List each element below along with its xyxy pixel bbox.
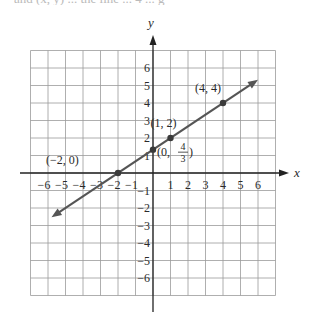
point-label: (1, 2) bbox=[151, 116, 177, 130]
data-point bbox=[220, 100, 226, 106]
data-point bbox=[115, 170, 121, 176]
y-tick-label: 3 bbox=[144, 114, 150, 128]
x-axis-label: x bbox=[293, 165, 300, 180]
y-tick-label: −2 bbox=[137, 201, 150, 215]
point-label: (−2, 0) bbox=[46, 153, 79, 167]
x-tick-label: 2 bbox=[185, 178, 191, 192]
x-tick-label: 3 bbox=[203, 178, 209, 192]
y-tick-label: 2 bbox=[144, 131, 150, 145]
y-tick-label: 4 bbox=[144, 96, 150, 110]
point-label-suffix: ) bbox=[189, 145, 193, 159]
point-label: (4, 4) bbox=[195, 81, 221, 95]
y-tick-label: −1 bbox=[137, 184, 150, 198]
line-arrow-lower-left-icon bbox=[52, 208, 63, 217]
y-axis-label: y bbox=[146, 15, 154, 30]
fraction-numerator: 4 bbox=[181, 141, 186, 152]
y-tick-label: −3 bbox=[137, 219, 150, 233]
y-tick-label: 5 bbox=[144, 79, 150, 93]
x-tick-label: 1 bbox=[168, 178, 174, 192]
x-tick-label: 5 bbox=[238, 178, 244, 192]
x-tick-label: −1 bbox=[125, 178, 138, 192]
x-tick-label: −5 bbox=[55, 178, 68, 192]
fraction-denominator: 3 bbox=[181, 153, 186, 164]
x-tick-label: −4 bbox=[73, 178, 86, 192]
y-tick-label: −6 bbox=[137, 271, 150, 285]
x-tick-label: 6 bbox=[255, 178, 261, 192]
y-tick-label: −4 bbox=[137, 236, 150, 250]
line-arrow-upper-right-icon bbox=[247, 80, 258, 89]
data-point bbox=[167, 135, 173, 141]
x-axis-arrow-icon bbox=[279, 170, 289, 177]
x-tick-label: −2 bbox=[108, 178, 121, 192]
data-point bbox=[150, 146, 156, 152]
y-tick-label: 6 bbox=[144, 61, 150, 75]
x-tick-label: −6 bbox=[38, 178, 51, 192]
x-tick-label: 4 bbox=[220, 178, 226, 192]
point-label-prefix: (0, bbox=[157, 145, 170, 159]
y-tick-label: −5 bbox=[137, 254, 150, 268]
y-axis-arrow-icon bbox=[150, 35, 157, 45]
coordinate-plane: x y −6−5−4−3−2−1123456654321−1−2−3−4−5−6… bbox=[0, 0, 315, 322]
